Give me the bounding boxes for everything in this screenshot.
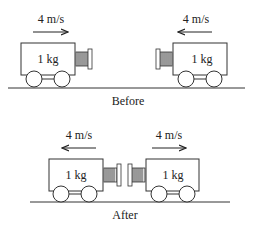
velocity-label: 4 m/s (38, 12, 65, 26)
before-right-cart: 4 m/s 1 kg (156, 12, 227, 87)
wheel-icon (151, 186, 167, 202)
velocity-label: 4 m/s (156, 128, 183, 142)
spring-icon (76, 52, 88, 66)
before-caption: Before (112, 94, 145, 108)
after-left-cart: 4 m/s 1 kg (49, 128, 121, 202)
before-left-cart: 4 m/s 1 kg (21, 12, 92, 87)
bumper-plate (117, 164, 121, 186)
mass-label: 1 kg (38, 52, 59, 66)
after-right-cart: 4 m/s 1 kg (128, 128, 199, 202)
before-scene: 4 m/s 1 kg 4 m/s 1 kg (8, 12, 245, 108)
bumper-plate (88, 49, 92, 69)
spring-icon (104, 168, 117, 182)
wheel-icon (178, 71, 194, 87)
wheel-icon (206, 71, 222, 87)
mass-label: 1 kg (66, 168, 87, 182)
bumper-plate (156, 49, 160, 69)
collision-diagram: 4 m/s 1 kg 4 m/s 1 kg (0, 0, 257, 228)
spring-icon (160, 52, 172, 66)
bumper-plate (128, 164, 132, 186)
wheel-icon (81, 186, 97, 202)
velocity-label: 4 m/s (66, 128, 93, 142)
velocity-label: 4 m/s (183, 12, 210, 26)
after-caption: After (112, 208, 137, 222)
wheel-icon (26, 71, 42, 87)
spring-icon (132, 168, 145, 182)
wheel-icon (53, 186, 69, 202)
wheel-icon (179, 186, 195, 202)
after-scene: 4 m/s 1 kg 4 m/s 1 kg (30, 128, 230, 222)
mass-label: 1 kg (192, 52, 213, 66)
mass-label: 1 kg (163, 168, 184, 182)
wheel-icon (54, 71, 70, 87)
